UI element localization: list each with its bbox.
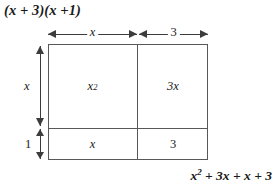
dimension-top-x-label: x bbox=[87, 25, 99, 39]
dimension-left-x: x bbox=[34, 46, 46, 126]
arrow-down-icon bbox=[36, 152, 44, 159]
arrow-up-icon bbox=[36, 129, 44, 136]
dimension-left-1-label: 1 bbox=[25, 138, 31, 151]
cell-label-x: x bbox=[48, 129, 137, 160]
arrow-up-icon bbox=[36, 46, 44, 54]
expanded-expression: x2 + 3x + x + 3 bbox=[190, 168, 272, 184]
result-rest: + 3x + x + 3 bbox=[202, 168, 272, 183]
factored-expression-title: (x + 3)(x +1) bbox=[4, 2, 81, 19]
arrow-left-icon bbox=[48, 30, 56, 38]
dimension-line bbox=[40, 46, 41, 126]
arrow-right-icon bbox=[200, 30, 208, 38]
dimension-top-x: x bbox=[48, 28, 137, 40]
dimension-top-3: 3 bbox=[139, 28, 208, 40]
cell-label-three-x: 3x bbox=[138, 45, 208, 128]
arrow-left-icon bbox=[139, 30, 147, 38]
arrow-down-icon bbox=[36, 118, 44, 126]
dimension-left-1: 1 bbox=[34, 129, 46, 159]
area-model-diagram: (x + 3)(x +1) x 3 x 1 x2 3x x 3 x2 + bbox=[0, 0, 276, 185]
dimension-left-x-label: x bbox=[24, 78, 30, 95]
arrow-right-icon bbox=[129, 30, 137, 38]
cell-label-x-squared: x2 bbox=[48, 45, 137, 128]
dimension-top-3-label: 3 bbox=[167, 25, 179, 39]
cell-label-three: 3 bbox=[138, 129, 208, 160]
